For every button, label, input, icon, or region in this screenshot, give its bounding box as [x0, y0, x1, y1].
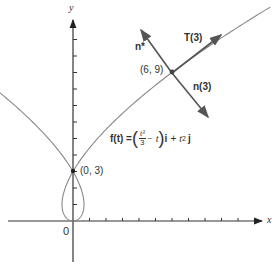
- formula-open-paren: (: [132, 129, 138, 147]
- curve-formula: f(t) = ( t³ 3 − t ) i + t2 j: [110, 129, 191, 147]
- formula-minus-t: − t: [147, 133, 159, 144]
- normal-vector-arrow: [172, 73, 208, 117]
- x-axis-label: x: [267, 215, 271, 225]
- curve-diagram: y x 0 (0, 3) (6, 9) T(3) n(3) n* f(t) = …: [0, 0, 279, 270]
- formula-i: i: [165, 133, 168, 144]
- point-label-0-3: (0, 3): [80, 166, 103, 176]
- formula-fraction: t³ 3: [139, 130, 146, 147]
- formula-denominator: 3: [140, 139, 144, 147]
- point-6-9: [170, 70, 175, 75]
- formula-plus: +: [170, 133, 176, 144]
- y-axis-label: y: [69, 3, 73, 13]
- origin-label: 0: [63, 226, 69, 237]
- formula-j: j: [188, 133, 191, 144]
- parametric-curve: [0, 7, 270, 221]
- point-0-3: [71, 169, 75, 173]
- point-label-6-9: (6, 9): [140, 65, 163, 75]
- formula-exponent: 2: [182, 135, 186, 142]
- tangent-vector-label: T(3): [184, 33, 202, 43]
- formula-lhs: f(t) =: [110, 133, 132, 144]
- normal-vector-label: n(3): [193, 82, 211, 92]
- normal-star-vector-label: n*: [135, 42, 145, 52]
